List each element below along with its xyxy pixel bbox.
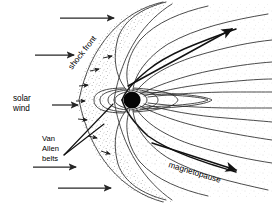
magnetosphere-figure: shock front solar wind Van Allen belts m… xyxy=(0,0,272,205)
diagram-canvas: shock front solar wind Van Allen belts m… xyxy=(0,0,272,205)
label-solar-wind-line2: wind xyxy=(12,104,30,113)
label-solar-wind-line1: solar xyxy=(13,94,31,103)
label-van-allen-line2: Allen xyxy=(42,144,59,153)
label-van-allen-line1: Van xyxy=(42,134,55,143)
earth-disc xyxy=(123,91,140,108)
label-van-allen-line3: belts xyxy=(42,154,58,163)
